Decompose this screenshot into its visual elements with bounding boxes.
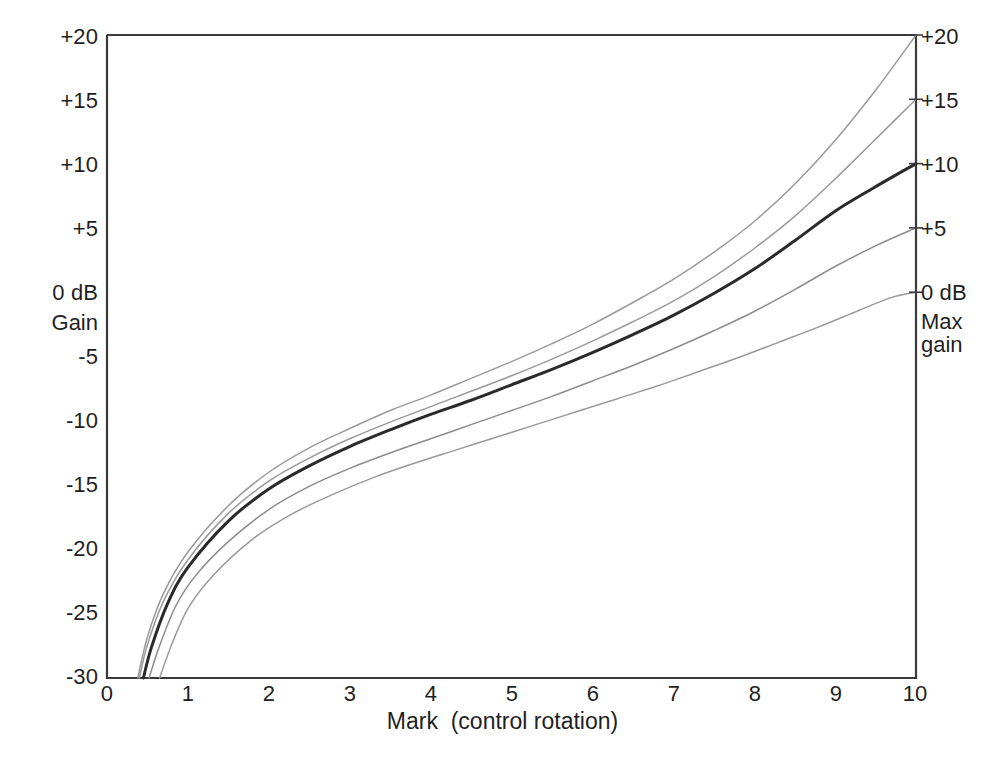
y-tick-left-0db: 0 dB [10, 281, 98, 306]
y-tick-left-10: +10 [10, 153, 98, 178]
y-tick-right-5: +5 [921, 217, 1001, 242]
x-tick-6: 6 [573, 682, 613, 707]
x-tick-10: 10 [895, 682, 935, 707]
y-axis-title-left: Gain [10, 310, 98, 336]
curve-10 [143, 164, 916, 678]
x-tick-5: 5 [492, 682, 532, 707]
plot-frame-border [107, 35, 916, 678]
y-tick-right-15: +15 [921, 89, 1001, 114]
x-tick-8: 8 [735, 682, 775, 707]
y-tick-left-m15: -15 [10, 473, 98, 498]
gain-taper-figure: +20 +15 +10 +5 0 dB -5 -10 -15 -20 -25 -… [0, 0, 1005, 771]
x-tick-3: 3 [330, 682, 370, 707]
y-tick-right-20: +20 [921, 25, 1001, 50]
curve-group [138, 35, 916, 678]
x-tick-1: 1 [168, 682, 208, 707]
x-axis-title: Mark (control rotation) [0, 708, 1005, 735]
plot-frame [107, 35, 916, 678]
curve-15 [139, 99, 916, 678]
y-tick-right-10: +10 [921, 153, 1001, 178]
y-tick-left-m25: -25 [10, 601, 98, 626]
x-tick-7: 7 [654, 682, 694, 707]
y-tick-left-20: +20 [10, 25, 98, 50]
x-tick-0: 0 [87, 682, 127, 707]
y-tick-left-m30: -30 [10, 665, 98, 690]
curve-20 [138, 35, 916, 678]
figure-caption [8, 757, 998, 771]
x-tick-2: 2 [249, 682, 289, 707]
curve-5 [149, 228, 916, 678]
y-tick-left-5: +5 [10, 217, 98, 242]
y-tick-left-m10: -10 [10, 409, 98, 434]
x-tick-9: 9 [816, 682, 856, 707]
chart-plot-area [0, 0, 1005, 771]
y-tick-left-m5: -5 [10, 345, 98, 370]
y-tick-left-m20: -20 [10, 537, 98, 562]
x-tick-4: 4 [411, 682, 451, 707]
y-tick-right-0db: 0 dB [921, 281, 1001, 306]
y-axis-title-right: Max gain [921, 310, 1003, 357]
y-tick-left-15: +15 [10, 89, 98, 114]
